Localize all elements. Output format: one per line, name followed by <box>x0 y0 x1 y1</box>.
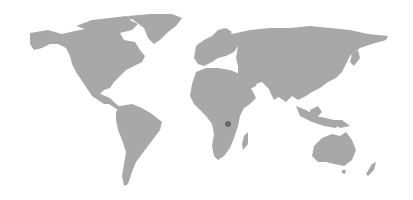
tasmania <box>342 170 346 174</box>
madagascar <box>242 132 248 150</box>
continents <box>30 14 388 186</box>
asia <box>232 26 388 102</box>
south-america <box>116 104 162 186</box>
north-america <box>30 20 145 104</box>
borneo <box>310 106 322 118</box>
world-map <box>0 0 413 200</box>
new-zealand <box>366 162 376 176</box>
world-map-svg <box>0 0 413 200</box>
australia <box>312 132 356 166</box>
greenland <box>128 14 182 44</box>
location-marker[interactable] <box>225 121 231 127</box>
